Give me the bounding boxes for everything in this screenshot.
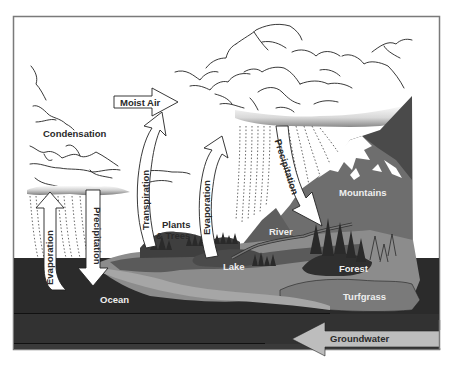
label-groundwater: Groundwater [330,334,389,344]
label-mountains: Mountains [339,188,387,198]
water-cycle-diagram: Condensation Moist Air Evaporation Preci… [0,0,469,381]
label-evaporation-ocean: Evaporation [45,230,55,285]
label-ocean: Ocean [100,295,129,305]
label-turfgrass: Turfgrass [343,292,386,302]
label-condensation: Condensation [43,129,106,139]
label-transpiration: Transpiration [141,170,151,230]
label-precipitation-ocean: Precipitation [93,207,103,265]
label-moist-air: Moist Air [120,98,160,108]
label-plants: Plants [162,220,191,230]
label-evaporation-lake: Evaporation [202,180,212,235]
diagram-canvas [0,0,469,381]
label-lake: Lake [223,262,245,272]
label-trees: & Trees [156,231,190,241]
label-forest: Forest [339,264,368,274]
label-river: River [269,227,293,237]
